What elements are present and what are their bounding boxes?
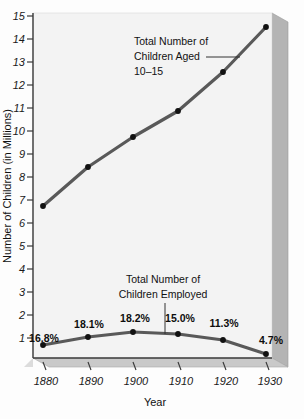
x-tick-label: 1890: [79, 375, 104, 387]
data-point: [40, 203, 46, 209]
y-tick-label: 3: [19, 286, 26, 298]
data-point: [220, 337, 226, 343]
y-axis-title: Number of Children (in Millions): [1, 109, 13, 263]
y-tick-label: 8: [19, 171, 26, 183]
y-tick-label: 13: [13, 56, 26, 68]
y-tick-label: 9: [19, 148, 25, 160]
x-tick-label: 1900: [124, 375, 149, 387]
chart-container: 15 14 13 12 11 10 9 8 7 6 5 4 3 2 1 Numb…: [0, 0, 304, 419]
upper-annotation-line: Total Number of: [134, 35, 208, 47]
panel-base: [33, 358, 288, 367]
percent-label: 16.8%: [29, 332, 59, 344]
data-point: [175, 108, 181, 114]
x-tick-label: 1930: [258, 375, 283, 387]
upper-annotation-line: 10–15: [134, 65, 163, 77]
panel-base-shadow: [24, 358, 33, 367]
y-tick-label: 7: [19, 194, 26, 206]
x-tick-label: 1920: [214, 375, 239, 387]
data-point: [85, 164, 91, 170]
data-point: [130, 329, 136, 335]
x-axis-tick-labels: 1880 1890 1900 1910 1920 1930: [34, 375, 283, 387]
lower-annotation-line: Children Employed: [119, 288, 208, 300]
percent-label: 11.3%: [209, 317, 239, 329]
line-chart: 15 14 13 12 11 10 9 8 7 6 5 4 3 2 1 Numb…: [0, 0, 304, 419]
data-point: [263, 24, 269, 30]
upper-annotation-line: Children Aged: [134, 50, 200, 62]
data-point: [175, 331, 181, 337]
x-tick-label: 1910: [169, 375, 194, 387]
y-tick-label: 4: [19, 263, 25, 275]
data-point: [220, 69, 226, 75]
lower-annotation-line: Total Number of: [126, 273, 200, 285]
y-tick-label: 5: [19, 240, 26, 252]
data-point: [85, 334, 91, 340]
data-point: [263, 351, 269, 357]
y-tick-label: 11: [14, 102, 25, 114]
percent-label: 18.1%: [74, 318, 104, 330]
data-point: [130, 134, 136, 140]
y-axis-ticks: [27, 16, 33, 338]
x-axis-title: Year: [144, 396, 167, 408]
y-tick-label: 14: [13, 33, 25, 45]
y-tick-label: 2: [18, 309, 25, 321]
panel-right-wall: [272, 13, 288, 367]
y-tick-label: 6: [19, 217, 26, 229]
y-axis-tick-labels: 15 14 13 12 11 10 9 8 7 6 5 4 3 2 1: [13, 10, 26, 344]
y-tick-label: 15: [13, 10, 26, 22]
percent-label: 18.2%: [120, 312, 150, 324]
y-tick-label: 10: [13, 125, 26, 137]
y-tick-label: 12: [13, 79, 25, 91]
x-tick-label: 1880: [34, 375, 59, 387]
y-tick-label: 1: [19, 332, 25, 344]
percent-label: 15.0%: [165, 312, 195, 324]
percent-label: 4.7%: [259, 334, 284, 346]
